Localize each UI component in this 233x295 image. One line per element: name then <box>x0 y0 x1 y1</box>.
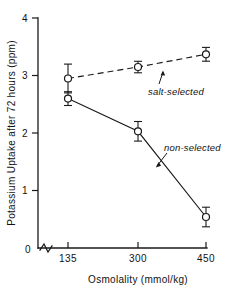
annotation-label-non-selected: non-selected <box>164 142 221 153</box>
chart-plot-area: 4 3 2 1 0 135 300 450 <box>0 0 233 295</box>
annotation-salt-selected: salt-selected <box>148 71 204 98</box>
x-tick-label-300: 300 <box>129 253 147 264</box>
x-tick-label-450: 450 <box>197 253 215 264</box>
y-tick-label-2: 2 <box>22 128 28 139</box>
x-tick-label-135: 135 <box>59 253 77 264</box>
y-tick-label-4: 4 <box>22 13 28 24</box>
chart-figure: 4 3 2 1 0 135 300 450 <box>0 0 233 295</box>
data-point-non-selected-135 <box>65 95 72 102</box>
data-point-non-selected-450 <box>203 214 210 221</box>
y-tick-label-0: 0 <box>25 244 31 255</box>
data-point-salt-selected-300 <box>135 64 142 71</box>
series-non-selected-line <box>68 99 206 217</box>
y-axis-title: Potassium Uptake after 72 hours (ppm) <box>6 40 17 226</box>
data-point-salt-selected-450 <box>203 51 210 58</box>
y-tick-label-1: 1 <box>22 185 28 196</box>
data-point-salt-selected-135 <box>65 75 72 82</box>
annotation-label-salt-selected: salt-selected <box>148 86 204 97</box>
annotation-non-selected: non-selected <box>156 142 222 167</box>
axis-break-symbol <box>40 244 52 252</box>
series-non-selected-errorbars <box>64 92 210 227</box>
y-tick-label-3: 3 <box>22 70 28 81</box>
x-axis-title: Osmolality (mmol/kg) <box>88 274 188 285</box>
series-non-selected <box>64 92 210 227</box>
data-point-non-selected-300 <box>135 128 142 135</box>
